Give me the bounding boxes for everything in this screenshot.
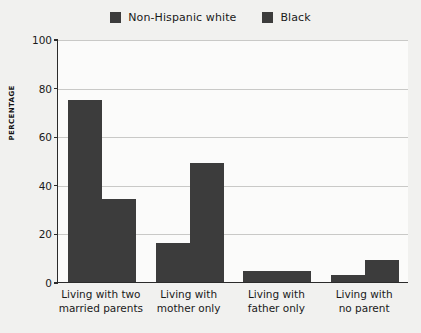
- plot-area: 020406080100: [57, 40, 408, 283]
- x-axis-category-label-line: Living with: [145, 288, 233, 302]
- x-axis-category-label-line: father only: [233, 302, 321, 316]
- y-axis-tick-label: 60: [6, 131, 52, 143]
- x-axis-category-label: Living withmother only: [145, 288, 233, 315]
- y-axis-tick-label: 20: [6, 228, 52, 240]
- bar: [243, 271, 277, 282]
- chart-legend: Non-Hispanic white Black: [0, 8, 421, 26]
- legend-label: Non-Hispanic white: [128, 11, 236, 24]
- y-axis-tick-label: 40: [6, 180, 52, 192]
- bar: [68, 100, 102, 282]
- y-axis-tick-label: 0: [6, 277, 52, 289]
- y-axis-tick-mark: [54, 282, 58, 283]
- bar: [277, 271, 311, 282]
- x-axis-category-label-line: Living with: [233, 288, 321, 302]
- x-axis-category-label-line: no parent: [320, 302, 408, 316]
- x-axis-category-label-line: Living with two: [57, 288, 145, 302]
- x-axis-category-label-line: mother only: [145, 302, 233, 316]
- bar: [156, 243, 190, 282]
- y-axis-tick-label: 100: [6, 34, 52, 46]
- bar: [331, 275, 365, 282]
- legend-swatch-icon: [262, 12, 273, 23]
- bar-chart: Non-Hispanic white Black PERCENTAGE 0204…: [0, 0, 421, 333]
- bar: [365, 260, 399, 282]
- legend-swatch-icon: [110, 12, 121, 23]
- bar: [190, 163, 224, 282]
- x-axis-category-labels: Living with twomarried parentsLiving wit…: [57, 288, 408, 328]
- x-axis-category-label: Living withfather only: [233, 288, 321, 315]
- legend-entry-black: Black: [262, 11, 310, 24]
- legend-entry-non-hispanic-white: Non-Hispanic white: [110, 11, 236, 24]
- y-axis-tick-label: 80: [6, 83, 52, 95]
- bar: [102, 199, 136, 282]
- x-axis-category-label-line: married parents: [57, 302, 145, 316]
- x-axis-category-label-line: Living with: [320, 288, 408, 302]
- bars-layer: [58, 40, 408, 282]
- x-axis-category-label: Living with twomarried parents: [57, 288, 145, 315]
- x-axis-category-label: Living withno parent: [320, 288, 408, 315]
- legend-label: Black: [280, 11, 310, 24]
